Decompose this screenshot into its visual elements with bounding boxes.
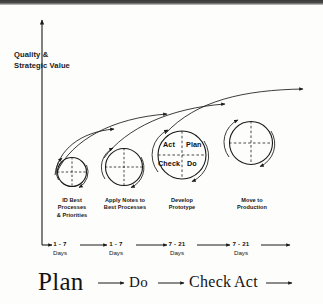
cycle-node-3 — [152, 130, 209, 182]
cycle-node-4-label: Move to Production — [222, 197, 282, 212]
phase-plan-label: Plan — [38, 268, 84, 296]
timeline-2-value: 1 - 7 — [96, 240, 136, 247]
timeline-4-value: 7 - 21 — [221, 240, 261, 247]
cycle-node-4 — [224, 120, 275, 167]
quadrant-plan-label: Plan — [186, 140, 202, 149]
pdca-cycle-diagram: Quality & Strategic Value ID Best Proces… — [0, 0, 323, 304]
timeline-3-unit: Days — [157, 249, 197, 256]
phase-do-label: Do — [129, 274, 148, 291]
timeline-2-unit: Days — [96, 249, 136, 256]
cycle-node-2-label: Apply Notes to Best Processes — [95, 197, 155, 212]
quadrant-do-label: Do — [187, 159, 197, 168]
cycle-node-2 — [101, 148, 144, 188]
cycle-node-1 — [56, 157, 88, 188]
timeline-4-unit: Days — [221, 249, 261, 256]
timeline-1-value: 1 - 7 — [40, 240, 80, 247]
quadrant-act-label: Act — [163, 140, 175, 149]
quadrant-check-label: Check — [158, 159, 180, 168]
phase-act-label: Act — [234, 273, 258, 291]
timeline-3-value: 7 - 21 — [157, 240, 197, 247]
y-axis-label: Quality & Strategic Value — [14, 50, 70, 71]
cycle-node-3-label: Develop Prototype — [152, 197, 212, 212]
cycle-node-1-label: ID Best Processes & Priorities — [42, 197, 102, 219]
timeline-1-unit: Days — [40, 249, 80, 256]
diagram-canvas — [0, 0, 323, 304]
phase-check-label: Check — [189, 273, 231, 291]
